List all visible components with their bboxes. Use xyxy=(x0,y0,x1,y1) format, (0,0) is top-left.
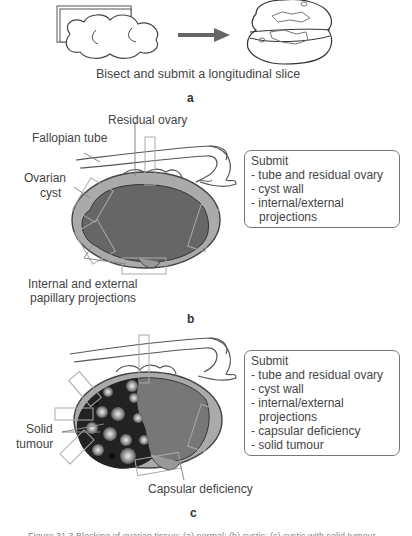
submit-item: - cyst wall xyxy=(251,182,393,196)
panel-b-label: b xyxy=(187,312,194,326)
panel-c-label: c xyxy=(190,506,197,520)
panel-a-graphics xyxy=(57,0,332,64)
submit-item: - tube and residual ovary xyxy=(251,368,393,382)
submit-item: - capsular deficiency xyxy=(251,424,393,438)
submit-item: - internal/external xyxy=(251,396,393,410)
submit-item: - solid tumour xyxy=(251,438,393,452)
panel-c-graphics xyxy=(55,335,236,480)
label-papillary-line2: papillary projections xyxy=(30,291,136,305)
submit-box-b-title: Submit xyxy=(251,154,393,168)
label-ovarian-cyst-line2: cyst xyxy=(40,186,61,200)
label-capsular-deficiency: Capsular deficiency xyxy=(148,482,253,496)
label-residual-ovary: Residual ovary xyxy=(108,113,187,127)
submit-box-c: Submit - tube and residual ovary - cyst … xyxy=(244,350,400,456)
submit-item: - cyst wall xyxy=(251,382,393,396)
submit-item: - internal/external xyxy=(251,196,393,210)
label-papillary-line1: Internal and external xyxy=(28,277,137,291)
figure-caption: Figure 31.3 Blocking of ovarian tissue: … xyxy=(28,528,388,536)
submit-item: - tube and residual ovary xyxy=(251,168,393,182)
label-solid-tumour-line2: tumour xyxy=(16,437,53,451)
submit-box-c-title: Submit xyxy=(251,354,393,368)
submit-item: projections xyxy=(251,210,393,224)
submit-item: projections xyxy=(251,410,393,424)
label-fallopian-tube: Fallopian tube xyxy=(32,131,107,145)
label-ovarian-cyst-line1: Ovarian xyxy=(24,171,66,185)
label-solid-tumour-line1: Solid xyxy=(26,422,53,436)
panel-a-label: a xyxy=(187,91,194,105)
submit-box-b: Submit - tube and residual ovary - cyst … xyxy=(244,150,400,228)
panel-a-caption: Bisect and submit a longitudinal slice xyxy=(96,67,300,81)
